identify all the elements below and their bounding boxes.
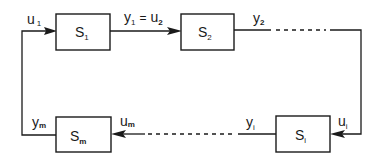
block-si: Si <box>276 116 330 152</box>
label-yi: yi <box>246 114 255 132</box>
subsystem-loop-diagram: S1 S2 Si Sm u1 y1=u2 y2 ui yi um ym <box>0 0 380 163</box>
label-um: um <box>120 113 135 129</box>
label-ui: ui <box>338 113 348 131</box>
label-y2: y2 <box>253 10 265 27</box>
block-s1: S1 <box>56 14 110 50</box>
label-u1: u1 <box>27 11 42 28</box>
feedback-line-ym-to-u1 <box>22 31 56 135</box>
block-s2: S2 <box>181 14 234 50</box>
label-ym: ym <box>32 114 46 130</box>
label-y1-equals-u2: y1=u2 <box>124 9 163 27</box>
block-sm: Sm <box>56 117 111 152</box>
